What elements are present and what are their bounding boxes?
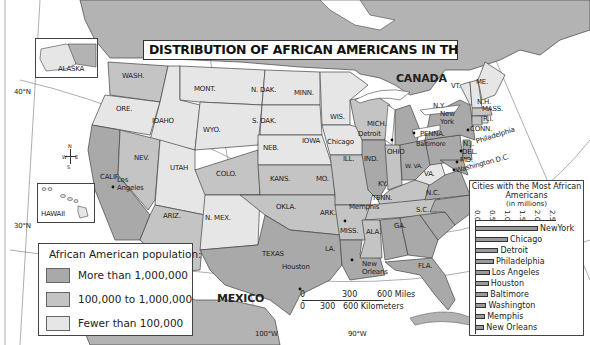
chart-bar xyxy=(475,270,490,275)
chart-bar-row: Los Angeles xyxy=(475,267,539,277)
state-label-tenn: TENN. xyxy=(372,194,392,202)
state-label-idaho: IDAHO xyxy=(152,117,174,125)
state-label-va: VA. xyxy=(424,170,435,178)
state-label-vt: VT. xyxy=(451,82,461,90)
state-label-ind: IND. xyxy=(364,155,378,163)
chart-bar-label: Memphis xyxy=(487,312,523,321)
legend-item-medium: 100,000 to 1,000,000 xyxy=(46,290,192,308)
state-label-me: ME. xyxy=(476,78,488,86)
city-label-houston: Houston xyxy=(282,263,310,271)
state-label-mich: MICH. xyxy=(367,120,386,128)
state-label-colo: COLO. xyxy=(216,170,237,178)
scale-miles-300: 300 xyxy=(342,290,357,299)
chart-bar-row: Baltimore xyxy=(475,289,529,299)
state-label-ark: ARK. xyxy=(320,209,336,217)
state-wash xyxy=(108,62,168,102)
state-label-texas: TEXAS xyxy=(262,250,284,258)
legend-label-low: Fewer than 100,000 xyxy=(78,317,183,329)
state-label-minn: MINN. xyxy=(294,89,314,97)
city-label-los-angeles-1: Los xyxy=(117,176,128,184)
scale-line xyxy=(302,300,384,301)
chart-bar xyxy=(475,325,484,330)
chart-bar xyxy=(475,292,488,297)
state-label-wis: WIS. xyxy=(330,113,345,121)
chart-subtitle: (in millions) xyxy=(470,200,583,208)
chart-bar-row: Detroit xyxy=(475,245,528,255)
state-label-miss: MISS. xyxy=(340,227,358,235)
chart-bar-row: New Orleans xyxy=(475,322,537,332)
chart-bar-row: Washington xyxy=(475,300,535,310)
lon-90-label: 90°W xyxy=(348,330,367,338)
state-label-ga: GA. xyxy=(394,222,406,230)
chart-bar-label: Los Angeles xyxy=(492,268,540,277)
legend-title: African American population: xyxy=(49,248,202,260)
chart-bar-label: New Orleans xyxy=(486,323,537,332)
state-label-la: LA. xyxy=(325,245,335,253)
state-label-nj: N.J. xyxy=(463,140,474,148)
map-title: DISTRIBUTION OF AFRICAN AMERICANS IN THE… xyxy=(143,40,458,60)
city-label-chicago: Chicago xyxy=(327,138,354,146)
mexico-label: MEXICO xyxy=(217,292,264,305)
state-label-okla: OKLA. xyxy=(276,203,296,211)
hawaii-inset: HAWAII xyxy=(37,183,95,223)
chart-bar-label: NewYork xyxy=(540,224,574,233)
state-label-mo: MO. xyxy=(316,175,329,183)
legend-swatch-low xyxy=(46,316,70,331)
chart-bar-row: Chicago xyxy=(475,234,542,244)
compass-rose: N W E S xyxy=(60,143,80,171)
map-legend: African American population: More than 1… xyxy=(38,243,193,336)
state-label-ndak: N. DAK. xyxy=(251,86,276,94)
city-label-los-angeles-2: Angeles xyxy=(117,184,143,192)
chart-bar-label: Baltimore xyxy=(490,290,529,299)
legend-swatch-medium xyxy=(46,292,70,307)
state-label-ky: KY. xyxy=(378,180,387,188)
state-label-conn: CONN. xyxy=(470,125,492,133)
scale-bar: 0 300 600 Miles 0 300 600 Kilometers xyxy=(300,290,430,320)
scale-km-600: 600 Kilometers xyxy=(343,302,404,311)
legend-label-medium: 100,000 to 1,000,000 xyxy=(78,293,192,305)
chart-bar xyxy=(475,248,498,253)
city-label-detroit: Detroit xyxy=(358,130,381,138)
state-label-nev: NEV. xyxy=(134,154,149,162)
state-label-ri: R.I. xyxy=(483,115,493,123)
chart-bar-label: Chicago xyxy=(510,235,542,244)
state-label-penna: PENNA. xyxy=(420,130,445,138)
scale-miles-0: 0 xyxy=(300,290,305,299)
chart-bar xyxy=(475,314,485,319)
compass-w: W xyxy=(62,154,67,160)
city-label-new-orleans-2: Orleans xyxy=(362,268,388,276)
lon-100-label: 100°W xyxy=(255,330,278,338)
canada-label: CANADA xyxy=(396,72,447,85)
chart-bar-label: Washington xyxy=(488,301,535,310)
city-label-new-york-2: York xyxy=(440,118,454,126)
chart-bar-row: Philadelphia xyxy=(475,256,545,266)
scale-km-0: 0 xyxy=(300,302,305,311)
hawaii-label: HAWAII xyxy=(41,210,65,218)
state-label-sc: S.C. xyxy=(416,206,429,214)
state-label-ill: ILL. xyxy=(343,155,354,163)
city-label-memphis: Memphis xyxy=(349,203,379,211)
state-label-iowa: IOWA xyxy=(302,137,320,145)
state-label-mass: MASS. xyxy=(482,105,503,113)
scale-km-300: 300 xyxy=(320,302,335,311)
chart-bar-row: Memphis xyxy=(475,311,523,321)
state-label-del: DEL. xyxy=(462,148,477,156)
chart-bar-label: Detroit xyxy=(500,246,528,255)
state-label-utah: UTAH xyxy=(170,164,188,172)
chart-bar xyxy=(475,259,494,264)
state-label-mont: MONT. xyxy=(194,85,215,93)
lat-30-label: 30°N xyxy=(14,222,31,230)
state-conn xyxy=(472,116,482,125)
state-label-nmex: N. MEX. xyxy=(205,214,231,222)
alaska-inset: ALASKA xyxy=(35,38,98,78)
state-label-ala: ALA. xyxy=(366,228,381,236)
chart-bar xyxy=(475,303,486,308)
compass-s: S xyxy=(67,164,70,170)
scale-miles-600: 600 Miles xyxy=(377,290,415,299)
chart-title: Cities with the Most African Americans xyxy=(470,182,583,200)
chart-bar xyxy=(475,237,508,242)
legend-swatch-high xyxy=(46,268,70,283)
state-label-wash: WASH. xyxy=(122,72,144,80)
chart-bar xyxy=(475,281,489,286)
chart-bar xyxy=(475,226,538,231)
